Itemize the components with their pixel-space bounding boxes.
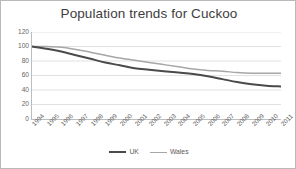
chart-figure: Population trends for Cuckoo 02040608010… bbox=[0, 0, 296, 169]
x-tick-label: 2001 bbox=[134, 113, 149, 128]
x-tick-label: 2004 bbox=[177, 113, 192, 128]
x-tick-label: 2009 bbox=[251, 113, 266, 128]
x-tick-label: 1999 bbox=[104, 113, 119, 128]
x-tick-label: 2003 bbox=[163, 113, 178, 128]
chart-legend: UKWales bbox=[1, 149, 296, 156]
x-tick-label: 2005 bbox=[192, 113, 207, 128]
x-tick-label: 1998 bbox=[90, 113, 105, 128]
x-tick-label: 2008 bbox=[236, 113, 251, 128]
x-tick-label: 2002 bbox=[148, 113, 163, 128]
legend-line-swatch bbox=[150, 152, 167, 153]
x-axis-tick-labels: 1994199519961997199819992000200120022003… bbox=[1, 1, 296, 169]
x-tick-label: 2006 bbox=[207, 113, 222, 128]
x-tick-label: 2011 bbox=[280, 113, 294, 127]
x-tick-label: 1994 bbox=[31, 113, 46, 128]
legend-item-wales[interactable]: Wales bbox=[150, 149, 189, 156]
legend-label: UK bbox=[129, 149, 138, 156]
legend-label: Wales bbox=[170, 149, 189, 156]
legend-item-uk[interactable]: UK bbox=[109, 149, 138, 156]
x-tick-label: 2007 bbox=[221, 113, 236, 128]
x-tick-label: 2000 bbox=[119, 113, 134, 128]
x-tick-label: 1995 bbox=[46, 113, 61, 128]
x-tick-label: 1996 bbox=[60, 113, 75, 128]
x-tick-label: 2010 bbox=[265, 113, 280, 128]
x-tick-label: 1997 bbox=[75, 113, 90, 128]
legend-line-swatch bbox=[109, 151, 126, 153]
